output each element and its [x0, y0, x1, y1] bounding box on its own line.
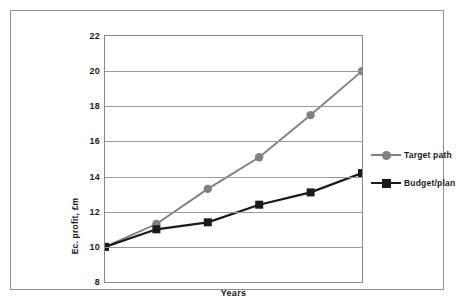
y-tick-label-10: 10: [64, 242, 100, 252]
image-frame: Ec. profit, £m 222018161412108 Years Tar…: [10, 10, 444, 290]
plot-area: [104, 35, 363, 283]
x-axis-title: Years: [104, 288, 363, 298]
legend-label: Budget/plan: [401, 178, 455, 188]
gridline-18: [105, 106, 362, 107]
chart-legend: Target pathBudget/plan: [371, 141, 456, 197]
gridline-14: [105, 177, 362, 178]
y-axis-ticks: 222018161412108: [60, 35, 100, 283]
legend-symbol: [382, 179, 391, 188]
series-line-target-path: [105, 71, 362, 247]
y-tick-label-16: 16: [64, 136, 100, 146]
y-axis-title-wrapper: Ec. profit, £m: [33, 101, 57, 211]
gridline-20: [105, 71, 362, 72]
data-point: [255, 153, 263, 161]
gridline-12: [105, 212, 362, 213]
data-point: [204, 218, 212, 226]
gridline-16: [105, 141, 362, 142]
y-tick-label-20: 20: [64, 66, 100, 76]
y-tick-label-8: 8: [64, 277, 100, 287]
legend-item[interactable]: Budget/plan: [371, 169, 456, 197]
legend-symbol: [382, 151, 391, 160]
legend-label: Target path: [401, 150, 452, 160]
y-tick-label-14: 14: [64, 172, 100, 182]
y-tick-label-18: 18: [64, 101, 100, 111]
series-layer: [105, 36, 362, 282]
legend-marker-square-icon: [371, 176, 401, 190]
data-point: [255, 201, 263, 209]
series-line-budget-plan: [105, 173, 362, 247]
data-point: [307, 188, 315, 196]
y-tick-label-12: 12: [64, 207, 100, 217]
data-point: [204, 185, 212, 193]
legend-item[interactable]: Target path: [371, 141, 456, 169]
data-point: [306, 111, 314, 119]
y-tick-label-22: 22: [64, 31, 100, 41]
gridline-10: [105, 247, 362, 248]
data-point: [152, 225, 160, 233]
legend-marker-circle-icon: [371, 148, 401, 162]
line-chart: Ec. profit, £m 222018161412108 Years Tar…: [11, 11, 456, 300]
